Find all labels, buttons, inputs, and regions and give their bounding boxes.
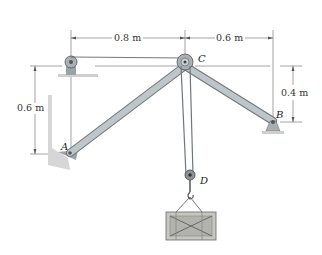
dim-vertical-right: 0.4 m [281,88,308,98]
cable-top [71,57,185,58]
cables-CD [181,66,193,175]
label-C: C [198,54,206,64]
pulley-frame-diagram [0,0,322,255]
pin-A [68,151,72,155]
dimension-arrows [34,37,295,155]
dimension-lines [30,30,302,154]
member-BC [185,66,273,121]
dim-horizontal-left: 0.8 m [114,33,141,43]
crate [166,212,216,240]
slings [176,197,202,212]
wall-A [48,95,78,170]
label-B: B [276,110,283,120]
left-pulley-support [58,56,98,77]
member-AC [70,66,185,153]
dim-vertical-left: 0.6 m [17,103,44,113]
label-D: D [200,176,208,186]
pulley-D [185,170,195,199]
dim-horizontal-right: 0.6 m [216,33,243,43]
label-A: A [61,142,68,152]
